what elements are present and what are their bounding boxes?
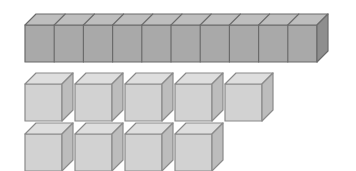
cube-front-face bbox=[75, 134, 112, 171]
unit-cube bbox=[125, 123, 173, 171]
cube-front-face bbox=[175, 134, 212, 171]
cube-front-face bbox=[125, 84, 162, 121]
base-ten-blocks-figure bbox=[0, 0, 356, 171]
cube-front-face bbox=[175, 84, 212, 121]
unit-cube bbox=[125, 73, 173, 121]
cube-front-face bbox=[225, 84, 262, 121]
cube-row-top bbox=[25, 73, 273, 121]
cube-front-face bbox=[25, 84, 62, 121]
ten-rod bbox=[25, 14, 328, 62]
blocks-illustration-canvas bbox=[0, 0, 356, 171]
unit-cube bbox=[175, 73, 223, 121]
unit-cube bbox=[25, 123, 73, 171]
unit-cube bbox=[175, 123, 223, 171]
cube-front-face bbox=[25, 134, 62, 171]
unit-cube bbox=[75, 123, 123, 171]
cube-front-face bbox=[125, 134, 162, 171]
unit-cube bbox=[225, 73, 273, 121]
cube-front-face bbox=[75, 84, 112, 121]
unit-cube bbox=[75, 73, 123, 121]
unit-cube bbox=[25, 73, 73, 121]
